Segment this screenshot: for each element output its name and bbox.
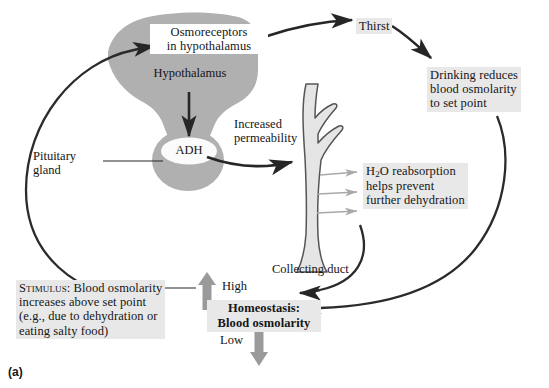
thirst-to-drinking-arrow [392, 26, 431, 58]
collecting-duct-label: Collecting duct [272, 262, 349, 276]
water-arrow-1 [320, 172, 357, 175]
collecting-duct-icon [297, 84, 343, 272]
stimulus-label: Stimulus: Blood osmolarity increases abo… [16, 280, 165, 339]
water-arrow-3 [317, 211, 357, 213]
homeostasis-variable: Blood osmolarity [218, 316, 311, 330]
down-arrow-icon [250, 328, 268, 366]
water-arrow-2 [318, 192, 357, 194]
water-reabsorption-label: H2O reabsorption helps prevent further d… [363, 163, 468, 209]
pituitary-gland-label: Pituitary gland [33, 149, 76, 177]
water-formula-h: H [366, 164, 375, 178]
duct-to-homeostasis-curve [320, 225, 364, 290]
stimulus-keyword: Stimulus: [19, 281, 70, 295]
drinking-label: Drinking reduces blood osmolarity to set… [427, 67, 521, 112]
homeostasis-title: Homeostasis: [228, 301, 300, 315]
osmoreceptors-to-thirst-arrow [264, 20, 352, 37]
osmoreceptors-label: Osmoreceptors in hypothalamus [150, 24, 268, 54]
increased-permeability-label: Increased permeability [234, 117, 297, 145]
osmoregulation-feedback-figure: Osmoreceptors in hypothalamus Hypothalam… [0, 0, 549, 388]
panel-letter: (a) [8, 365, 23, 379]
hypothalamus-label: Hypothalamus [140, 66, 240, 80]
homeostasis-arrowhead-upper [300, 290, 320, 293]
water-formula-o: O [380, 164, 389, 178]
low-label: Low [220, 333, 243, 347]
high-label: High [222, 279, 247, 293]
homeostasis-box: Homeostasis:Blood osmolarity [207, 300, 321, 332]
water-formula-sub: 2 [375, 169, 380, 179]
thirst-label: Thirst [356, 18, 392, 34]
adh-label: ADH [164, 143, 214, 157]
